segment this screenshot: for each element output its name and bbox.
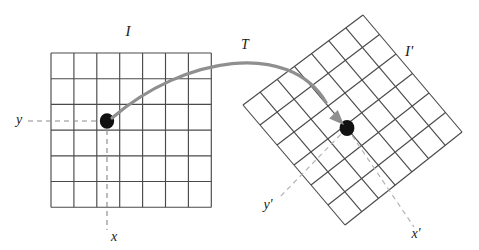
target-y-label: y' [261, 197, 273, 212]
transformation-diagram: I I' T x y x' y' [0, 0, 479, 250]
diagram-background [0, 0, 479, 250]
source-x-label: x [110, 229, 118, 244]
transform-label: T [241, 37, 250, 52]
source-image-label: I [125, 23, 132, 39]
target-image-label: I' [404, 43, 414, 59]
source-y-label: y [14, 112, 23, 127]
source-point-dot [100, 113, 114, 129]
target-x-label: x' [410, 226, 421, 241]
